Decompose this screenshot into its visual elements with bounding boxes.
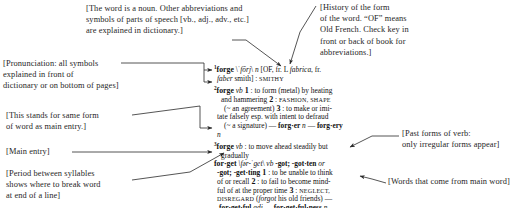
dictionary-entry-block: 1forge \ˈfōrj\ n [OF, fr. L fabrica, fr.… bbox=[214, 63, 396, 208]
diagram-canvas: [The word is a noun. Other abbreviations… bbox=[0, 0, 517, 208]
entry-line: (~ a signature) — forg·er n — forg·ery bbox=[214, 122, 396, 131]
entry-line: n bbox=[214, 131, 396, 140]
entry-line: for·get·ful adj — for·get·ful·ness n bbox=[214, 204, 396, 208]
entry-line: faber smith] : SMITHY bbox=[214, 75, 396, 84]
past-forms-note: [Past forms of verb: only irregular form… bbox=[402, 128, 517, 150]
etymology-note: [History of the form of the word. “OF” m… bbox=[320, 2, 510, 58]
part-of-speech-note: [The word is a noun. Other abbreviations… bbox=[86, 3, 308, 37]
derived-words-note: [Words that come from main word] bbox=[388, 176, 517, 187]
same-form-note: [This stands for same form of word as ma… bbox=[6, 110, 186, 132]
pronunciation-note: [Pronunciation: all symbols explained in… bbox=[3, 58, 203, 92]
main-entry-note: [Main entry] bbox=[6, 146, 126, 157]
leader-pronunciation-2 bbox=[204, 70, 212, 82]
syllable-period-note: [Period between syllables shows where to… bbox=[6, 168, 196, 202]
